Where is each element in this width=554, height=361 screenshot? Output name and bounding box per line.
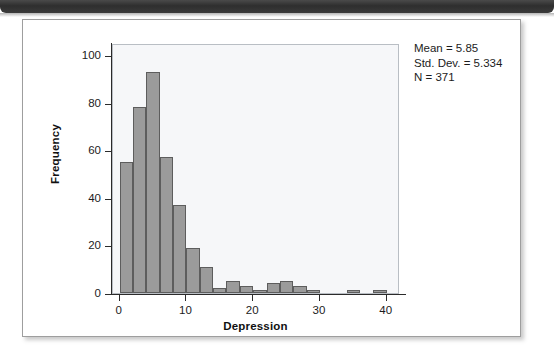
std-dev-stat: Std. Dev. = 5.334 xyxy=(414,56,502,71)
title-bar-shadow xyxy=(0,13,554,17)
histogram-bar xyxy=(267,283,280,293)
y-tick-mark xyxy=(105,56,111,57)
histogram-bar xyxy=(213,288,226,293)
histogram-bar xyxy=(146,72,159,293)
window-title-bar xyxy=(0,0,554,13)
y-tick-label: 20 xyxy=(31,240,101,251)
histogram-bar xyxy=(280,281,293,293)
x-tick-label: 0 xyxy=(99,304,139,316)
histogram-bar xyxy=(173,205,186,293)
histogram-bar xyxy=(240,286,253,293)
histogram-bar xyxy=(200,267,213,293)
y-tick-label: 80 xyxy=(31,98,101,109)
mean-stat: Mean = 5.85 xyxy=(414,41,502,56)
y-tick-mark xyxy=(105,199,111,200)
x-tick-mark xyxy=(252,295,253,301)
x-axis-line xyxy=(105,294,406,295)
sample-size-stat: N = 371 xyxy=(414,70,502,85)
histogram-bar xyxy=(133,107,146,293)
y-tick-label: 60 xyxy=(31,145,101,156)
x-tick-mark xyxy=(185,295,186,301)
y-tick-label: 0 xyxy=(31,288,101,299)
y-axis-title: Frequency xyxy=(49,94,61,214)
y-tick-label: 100 xyxy=(31,50,101,61)
x-tick-label: 10 xyxy=(165,304,205,316)
statistics-annotation: Mean = 5.85 Std. Dev. = 5.334 N = 371 xyxy=(414,41,502,85)
histogram-bar xyxy=(226,281,239,293)
x-axis-title: Depression xyxy=(112,320,399,332)
histogram-bar xyxy=(160,157,173,293)
histogram-figure-card: 020406080100 010203040 Frequency Depress… xyxy=(22,19,521,337)
histogram-bar xyxy=(293,286,306,293)
y-axis-line xyxy=(111,43,112,295)
histogram-bar xyxy=(186,248,199,293)
x-tick-mark xyxy=(386,295,387,301)
y-tick-label: 40 xyxy=(31,193,101,204)
y-tick-mark xyxy=(105,104,111,105)
histogram-bar xyxy=(373,290,386,293)
histogram-bars xyxy=(113,45,398,293)
x-tick-label: 20 xyxy=(232,304,272,316)
x-tick-label: 30 xyxy=(299,304,339,316)
histogram-bar xyxy=(347,290,360,293)
y-tick-mark xyxy=(105,294,111,295)
histogram-bar xyxy=(253,290,266,293)
y-tick-mark xyxy=(105,246,111,247)
y-tick-mark xyxy=(105,151,111,152)
x-tick-mark xyxy=(319,295,320,301)
x-tick-mark xyxy=(119,295,120,301)
histogram-bar xyxy=(307,290,320,293)
plot-panel xyxy=(112,44,399,294)
histogram-bar xyxy=(120,162,133,293)
x-tick-label: 40 xyxy=(366,304,406,316)
